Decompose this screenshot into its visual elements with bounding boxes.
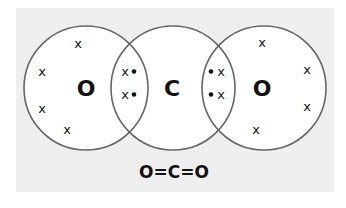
electron-cross: x — [38, 64, 46, 79]
electron-cross: x — [303, 99, 311, 114]
co2-dot-cross-diagram: O C O x x x x x x x x x x x x O=C=O — [0, 0, 346, 208]
oxygen-left-symbol: O — [77, 76, 96, 101]
electron-cross: x — [121, 87, 129, 102]
electron-dot — [132, 92, 137, 97]
carbon-symbol: C — [164, 76, 180, 101]
electron-cross: x — [74, 36, 82, 51]
electron-cross: x — [252, 122, 260, 137]
electron-dot — [132, 69, 137, 74]
oxygen-right-symbol: O — [253, 76, 272, 101]
electron-cross: x — [121, 64, 129, 79]
electron-cross: x — [217, 87, 225, 102]
electron-dot — [209, 69, 214, 74]
electron-cross: x — [38, 101, 46, 116]
electron-cross: x — [217, 64, 225, 79]
electron-dot — [209, 92, 214, 97]
structural-formula: O=C=O — [139, 162, 209, 182]
electron-cross: x — [303, 62, 311, 77]
electron-cross: x — [258, 35, 266, 50]
electron-cross: x — [63, 122, 71, 137]
